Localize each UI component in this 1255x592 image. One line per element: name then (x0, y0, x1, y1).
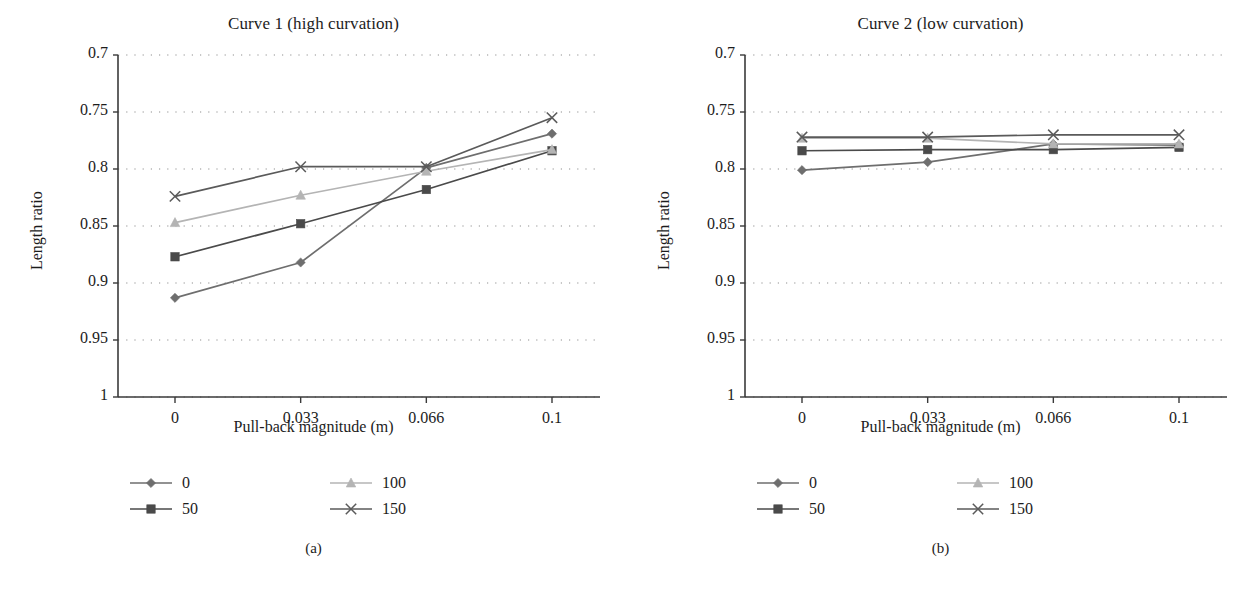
y-axis-tick-label: 0.8 (667, 158, 735, 176)
x-axis-tick-label: 0 (752, 409, 852, 427)
x-axis-tick-label: 0.033 (251, 409, 351, 427)
panel-a-plot (0, 0, 627, 420)
x-axis-tick-label: 0.1 (1129, 409, 1229, 427)
legend-item[interactable]: 0 (755, 470, 955, 496)
legend-item[interactable]: 150 (955, 496, 1155, 522)
x-axis-tick-label: 0.066 (376, 409, 476, 427)
legend-item[interactable]: 50 (128, 496, 328, 522)
y-axis-tick-label: 1 (667, 386, 735, 404)
x-axis-tick-label: 0 (125, 409, 225, 427)
y-axis-tick-label: 0.95 (667, 329, 735, 347)
x-axis-tick-label: 0.033 (878, 409, 978, 427)
legend-item-label: 150 (382, 500, 406, 518)
legend-item[interactable]: 100 (328, 470, 528, 496)
diamond-marker (755, 474, 801, 492)
panel-b: Curve 2 (low curvation) Length ratio Pul… (627, 0, 1254, 592)
y-axis-tick-label: 0.7 (40, 44, 108, 62)
legend-item-label: 50 (809, 500, 825, 518)
triangle-marker (328, 474, 374, 492)
x-axis-tick-label: 0.1 (502, 409, 602, 427)
y-axis-tick-label: 0.95 (40, 329, 108, 347)
figure-container: Curve 1 (high curvation) Length ratio Pu… (0, 0, 1255, 592)
legend-item[interactable]: 50 (755, 496, 955, 522)
square-marker (755, 500, 801, 518)
panel-a: Curve 1 (high curvation) Length ratio Pu… (0, 0, 627, 592)
panel-b-legend: 010050150 (755, 470, 1155, 522)
y-axis-tick-label: 0.85 (40, 215, 108, 233)
panel-b-plot-svg (627, 0, 1254, 420)
panel-b-caption: (b) (627, 540, 1254, 557)
y-axis-tick-label: 0.9 (667, 272, 735, 290)
legend-item[interactable]: 150 (328, 496, 528, 522)
square-marker (128, 500, 174, 518)
legend-item-label: 150 (1009, 500, 1033, 518)
y-axis-tick-label: 0.75 (40, 101, 108, 119)
legend-item-label: 50 (182, 500, 198, 518)
legend-item-label: 100 (382, 474, 406, 492)
panel-a-caption: (a) (0, 540, 627, 557)
legend-item-label: 100 (1009, 474, 1033, 492)
legend-item-label: 0 (809, 474, 817, 492)
y-axis-tick-label: 0.9 (40, 272, 108, 290)
y-axis-tick-label: 0.7 (667, 44, 735, 62)
y-axis-tick-label: 0.8 (40, 158, 108, 176)
legend-item-label: 0 (182, 474, 190, 492)
legend-item[interactable]: 0 (128, 470, 328, 496)
y-axis-tick-label: 0.85 (667, 215, 735, 233)
diamond-marker (128, 474, 174, 492)
panel-a-plot-svg (0, 0, 627, 420)
y-axis-tick-label: 0.75 (667, 101, 735, 119)
x-marker (328, 500, 374, 518)
x-marker (955, 500, 1001, 518)
panel-b-plot (627, 0, 1254, 420)
x-axis-tick-label: 0.066 (1003, 409, 1103, 427)
panel-a-legend: 010050150 (128, 470, 528, 522)
y-axis-tick-label: 1 (40, 386, 108, 404)
triangle-marker (955, 474, 1001, 492)
legend-item[interactable]: 100 (955, 470, 1155, 496)
